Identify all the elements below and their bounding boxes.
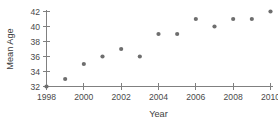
data-point-2003	[138, 54, 142, 58]
y-tick-label-34: 34	[30, 67, 40, 77]
data-point-1999	[63, 77, 67, 81]
data-point-2005	[175, 32, 179, 36]
data-point-2002	[119, 47, 123, 51]
y-tick-label-40: 40	[30, 22, 40, 32]
data-point-1998	[44, 84, 48, 88]
y-tick-label-42: 42	[30, 7, 40, 17]
y-tick-label-36: 36	[30, 52, 40, 62]
y-tick-label-38: 38	[30, 37, 40, 47]
x-tick-label-1998: 1998	[37, 92, 56, 102]
data-point-2000	[82, 62, 86, 66]
data-point-2008	[231, 17, 235, 21]
x-tick-label-2004: 2004	[149, 92, 168, 102]
scatter-chart: 323436384042 199820002002200420062008201…	[0, 0, 278, 126]
x-tick-label-2010: 2010	[261, 92, 278, 102]
data-point-2004	[156, 32, 160, 36]
data-point-2010	[268, 9, 272, 13]
y-axis-tick-labels: 323436384042	[30, 7, 40, 92]
data-points	[44, 9, 272, 88]
data-point-2007	[212, 24, 216, 28]
y-axis-title: Mean Age	[5, 28, 15, 69]
y-tick-label-32: 32	[30, 82, 40, 92]
x-tick-label-2000: 2000	[74, 92, 93, 102]
x-axis-title: Year	[149, 109, 168, 119]
plot-area: 323436384042 199820002002200420062008201…	[0, 0, 278, 126]
x-tick-label-2002: 2002	[112, 92, 131, 102]
x-axis-tick-labels: 1998200020022004200620082010	[37, 92, 278, 102]
data-point-2009	[250, 17, 254, 21]
data-point-2006	[194, 17, 198, 21]
data-point-2001	[100, 54, 104, 58]
x-tick-label-2006: 2006	[186, 92, 205, 102]
x-tick-label-2008: 2008	[224, 92, 243, 102]
